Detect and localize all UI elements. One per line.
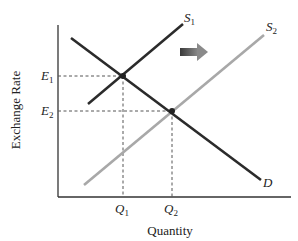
d-label: D <box>262 175 273 190</box>
equilibrium-point-1 <box>120 73 126 79</box>
exchange-rate-diagram: S1 S2 D E1 E2 Q1 Q2 Exchange Rate Quanti… <box>0 0 298 241</box>
e2-label: E2 <box>40 103 53 120</box>
e1-label: E1 <box>40 68 53 85</box>
q2-label: Q2 <box>164 201 178 218</box>
x-axis-title: Quantity <box>147 223 193 238</box>
q1-label: Q1 <box>115 201 129 218</box>
equilibrium-guides <box>58 76 172 197</box>
y-axis-title: Exchange Rate <box>8 71 23 150</box>
supply-curve-s1 <box>88 24 183 104</box>
s2-label: S2 <box>266 19 277 36</box>
demand-curve <box>71 38 261 180</box>
s1-label: S1 <box>184 10 195 27</box>
equilibrium-point-2 <box>169 108 175 114</box>
shift-right-arrow-icon <box>180 43 208 61</box>
